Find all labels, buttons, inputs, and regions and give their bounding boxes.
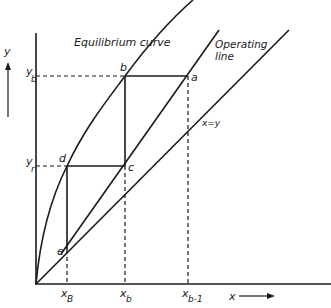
equilibrium-curve-label: Equilibrium curve bbox=[74, 36, 171, 49]
svg-text:b-1: b-1 bbox=[188, 294, 203, 304]
operating-line-label-2: line bbox=[215, 50, 234, 62]
x-axis-arrow-icon bbox=[239, 293, 275, 299]
y-axis-label: y bbox=[3, 45, 11, 58]
point-e-label: e bbox=[57, 245, 64, 258]
x-tick-xb-1: x b-1 bbox=[181, 287, 203, 304]
point-d-label: d bbox=[59, 152, 67, 165]
mccabe-thiele-diagram: y x Equilibrium curve Operating line x=y… bbox=[0, 0, 331, 308]
point-b-label: b bbox=[120, 61, 127, 74]
diagonal-line bbox=[36, 30, 289, 284]
point-c-label: c bbox=[128, 161, 134, 174]
operating-line bbox=[61, 30, 219, 254]
svg-text:b: b bbox=[31, 74, 37, 84]
y-tick-yr: y r bbox=[25, 155, 36, 174]
operating-line-label-1: Operating bbox=[215, 38, 268, 50]
x-tick-xB: x B bbox=[60, 287, 73, 304]
svg-text:b: b bbox=[126, 294, 132, 304]
svg-text:B: B bbox=[67, 294, 73, 304]
point-a-label: a bbox=[191, 71, 198, 84]
y-axis-arrow-icon bbox=[5, 62, 11, 117]
x-axis-label: x bbox=[228, 290, 236, 303]
x-tick-xb: x b bbox=[119, 287, 132, 304]
diagonal-label: x=y bbox=[201, 118, 221, 128]
